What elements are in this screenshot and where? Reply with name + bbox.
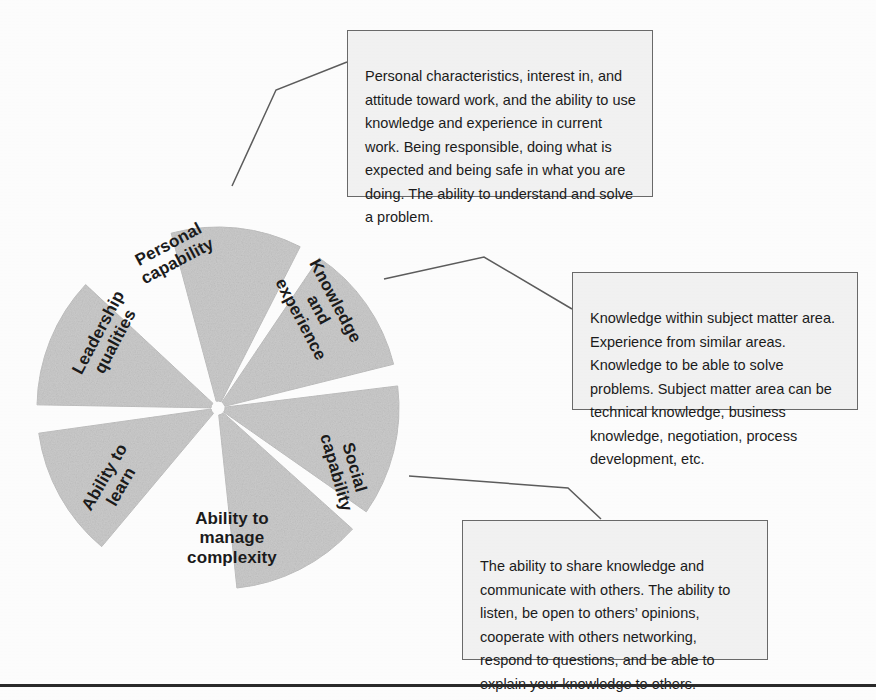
footer-rule — [0, 684, 876, 687]
callout-knowledge-and-experience: Knowledge within subject matter area. Ex… — [572, 272, 858, 410]
leader-line-knowledge-and-experience-callout — [384, 257, 572, 309]
leader-line-personal-capability-callout — [232, 62, 347, 186]
leader-line-social-capability-callout — [409, 476, 601, 519]
callout-text: Personal characteristics, interest in, a… — [365, 68, 636, 225]
callout-text: The ability to share knowledge and commu… — [480, 558, 730, 691]
segment-label-ability-to-manage-complexity: Ability to manage complexity — [187, 509, 277, 567]
diagram-page: Personal capabilityKnowledge and experie… — [0, 0, 876, 700]
callout-social-capability: The ability to share knowledge and commu… — [462, 520, 768, 660]
callout-personal-capability: Personal characteristics, interest in, a… — [347, 30, 653, 197]
